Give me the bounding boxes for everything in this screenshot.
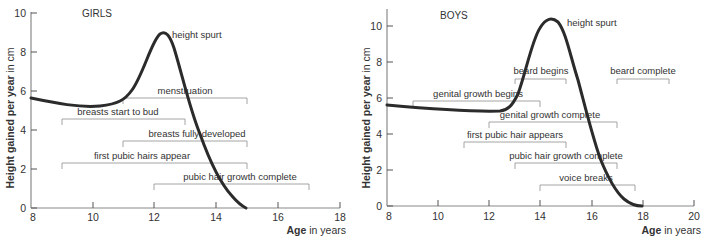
label-voice-breaks: voice breaks bbox=[559, 172, 613, 183]
svg-text:10: 10 bbox=[87, 211, 99, 223]
svg-text:8: 8 bbox=[30, 211, 36, 223]
girls-y-ticks: 0 2 4 6 8 10 bbox=[14, 7, 37, 214]
girls-x-axis-label: Age in years bbox=[286, 224, 346, 236]
boys-chart: Height gained per year in cm 0 2 4 6 8 1… bbox=[360, 9, 701, 236]
label-genital-growth-begins: genital growth begins bbox=[433, 88, 523, 99]
bracket-breasts-fully-developed bbox=[123, 141, 247, 147]
svg-text:12: 12 bbox=[483, 210, 495, 222]
puberty-growth-charts: Height gained per year in cm 0 2 4 6 8 1… bbox=[0, 0, 707, 237]
svg-text:2: 2 bbox=[376, 164, 382, 176]
svg-text:6: 6 bbox=[376, 92, 382, 104]
svg-text:8: 8 bbox=[376, 56, 382, 68]
bracket-pubic-hair-complete bbox=[154, 184, 309, 190]
bracket-genital-growth-complete bbox=[489, 122, 617, 128]
svg-text:8: 8 bbox=[386, 210, 392, 222]
bracket-breasts-start-to-bud bbox=[62, 119, 185, 125]
svg-text:18: 18 bbox=[637, 210, 649, 222]
boys-x-ticks: 8 10 12 14 16 18 20 bbox=[386, 200, 700, 222]
svg-text:2: 2 bbox=[20, 163, 26, 175]
svg-text:4: 4 bbox=[376, 128, 382, 140]
bracket-beard-complete bbox=[617, 79, 669, 84]
label-first-pubic-hairs: first pubic hairs appear bbox=[94, 150, 190, 161]
svg-text:18: 18 bbox=[334, 211, 346, 223]
svg-text:0: 0 bbox=[376, 200, 382, 212]
label-beard-complete: beard complete bbox=[610, 65, 675, 76]
girls-x-ticks: 8 10 12 14 16 18 bbox=[30, 202, 346, 223]
svg-text:4: 4 bbox=[20, 124, 26, 136]
bracket-first-pubic-hair bbox=[464, 142, 566, 148]
svg-text:10: 10 bbox=[432, 210, 444, 222]
bracket-genital-growth-begins bbox=[413, 101, 540, 107]
svg-text:14: 14 bbox=[210, 211, 222, 223]
bracket-voice-breaks bbox=[540, 185, 635, 191]
svg-text:12: 12 bbox=[148, 211, 160, 223]
label-first-pubic-hair: first pubic hair appears bbox=[467, 129, 563, 140]
boys-height-spurt-label: height spurt bbox=[567, 17, 617, 28]
svg-text:16: 16 bbox=[586, 210, 598, 222]
svg-text:10: 10 bbox=[14, 7, 26, 19]
svg-text:8: 8 bbox=[20, 46, 26, 58]
girls-height-spurt-label: height spurt bbox=[172, 29, 222, 40]
label-beard-begins: beard begins bbox=[514, 65, 569, 76]
svg-text:20: 20 bbox=[688, 210, 700, 222]
girls-y-axis-label: Height gained per year in cm bbox=[4, 47, 16, 188]
label-pubic-hair-complete: pubic hair growth complete bbox=[183, 171, 297, 182]
svg-text:6: 6 bbox=[20, 85, 26, 97]
svg-text:14: 14 bbox=[534, 210, 546, 222]
boys-y-ticks: 0 2 4 6 8 10 bbox=[370, 20, 393, 212]
boys-milestone-brackets: beard begins beard complete genital grow… bbox=[413, 65, 676, 191]
boys-title: BOYS bbox=[440, 10, 468, 21]
svg-text:16: 16 bbox=[272, 211, 284, 223]
svg-text:10: 10 bbox=[370, 20, 382, 32]
girls-chart: Height gained per year in cm 0 2 4 6 8 1… bbox=[4, 7, 346, 236]
boys-x-axis-label: Age in years bbox=[641, 224, 701, 236]
svg-text:0: 0 bbox=[20, 202, 26, 214]
label-pubic-hair-complete-boys: pubic hair growth complete bbox=[509, 150, 623, 161]
bracket-menstruation bbox=[123, 98, 247, 104]
girls-milestone-brackets: menstruation breasts start to bud breast… bbox=[62, 85, 309, 190]
boys-y-axis-label: Height gained per year in cm bbox=[360, 47, 372, 188]
bracket-first-pubic-hairs bbox=[62, 163, 247, 169]
girls-title: GIRLS bbox=[82, 8, 112, 19]
